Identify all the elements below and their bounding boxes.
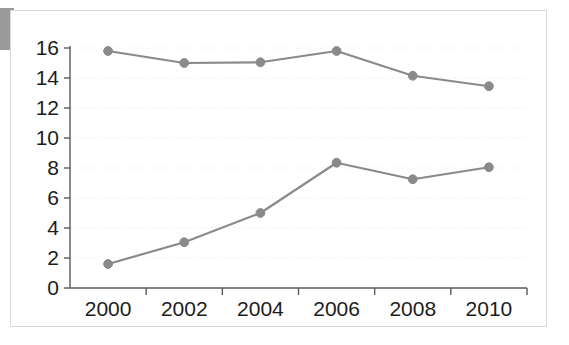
screenshot-root: 0246810121416200020022004200620082010 <box>0 0 569 345</box>
chart-panel <box>10 10 547 327</box>
